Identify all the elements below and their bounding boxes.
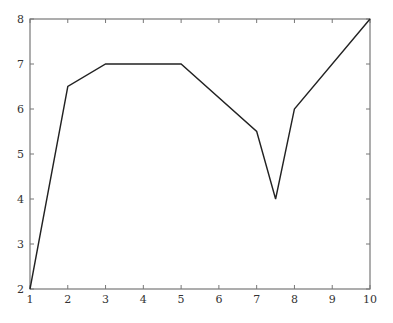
y-axis-tick-labels: 2345678 (17, 13, 24, 296)
y-tick-label: 8 (17, 13, 24, 26)
y-tick-label: 2 (17, 283, 24, 296)
x-tick-label: 5 (178, 293, 185, 306)
y-tick-label: 3 (17, 238, 24, 251)
x-tick-label: 7 (253, 293, 260, 306)
x-tick-label: 8 (291, 293, 298, 306)
x-tick-label: 6 (215, 293, 222, 306)
x-tick-label: 10 (363, 293, 377, 306)
plot-frame (30, 19, 370, 289)
x-tick-label: 4 (140, 293, 147, 306)
x-tick-label: 3 (102, 293, 109, 306)
x-axis-tick-labels: 12345678910 (27, 293, 378, 306)
line-chart: 12345678910 2345678 (0, 0, 393, 323)
y-tick-label: 7 (17, 58, 24, 71)
y-tick-label: 6 (17, 103, 24, 116)
axis-ticks (30, 19, 370, 289)
y-tick-label: 4 (17, 193, 24, 206)
y-tick-label: 5 (17, 148, 24, 161)
x-tick-label: 1 (27, 293, 34, 306)
x-tick-label: 9 (329, 293, 336, 306)
x-tick-label: 2 (64, 293, 71, 306)
data-line (30, 19, 370, 289)
